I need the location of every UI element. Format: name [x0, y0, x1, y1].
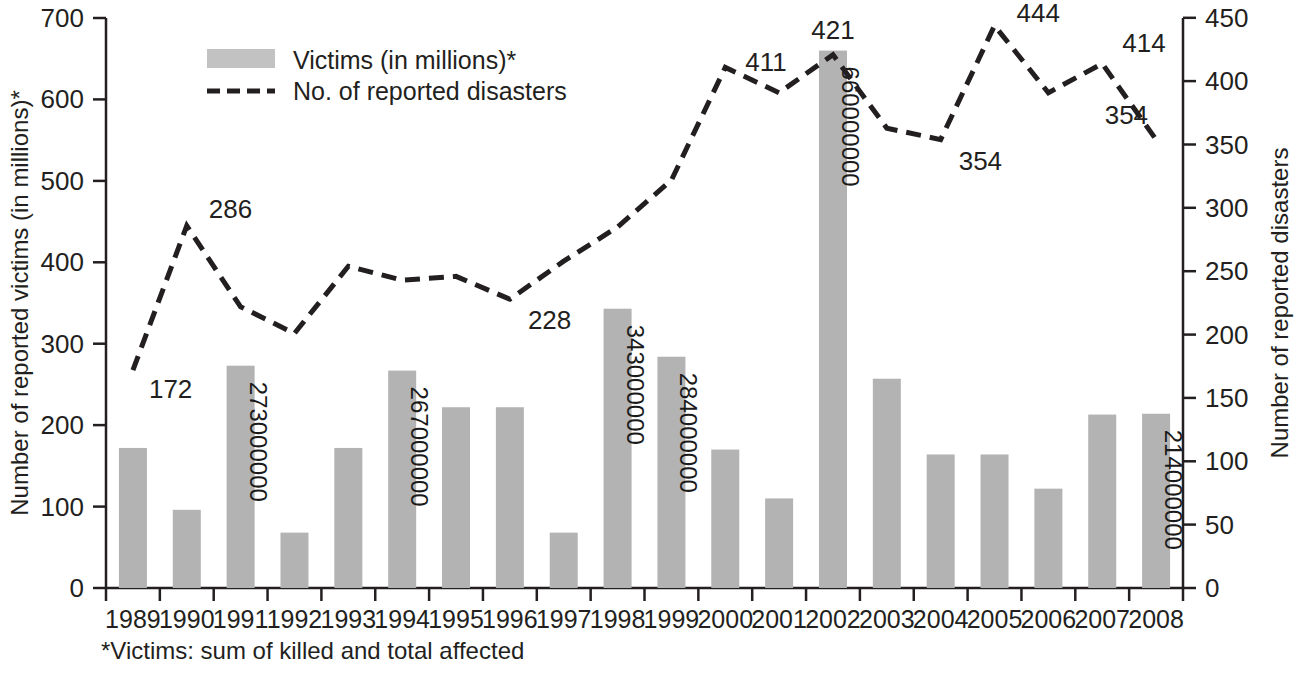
x-category-label: 2006 [1021, 605, 1077, 633]
x-category-label: 2007 [1074, 605, 1130, 633]
x-category-label: 2008 [1128, 605, 1184, 633]
line-value-label: 286 [209, 194, 252, 224]
footnote: *Victims: sum of killed and total affect… [101, 637, 524, 664]
left-tick-500: 500 [41, 166, 84, 196]
left-axis-tick-labels: 0 100 200 300 400 500 600 700 [41, 3, 84, 603]
right-axis-tick-labels: 0 50 100 150 200 250 300 350 400 450 [1205, 3, 1248, 603]
bar [280, 533, 308, 588]
x-category-label: 1997 [536, 605, 592, 633]
bar [496, 407, 524, 588]
right-tick-0: 0 [1205, 573, 1219, 603]
x-category-label: 1998 [590, 605, 646, 633]
x-category-label: 1994 [374, 605, 430, 633]
right-tick-450: 450 [1205, 3, 1248, 33]
legend: Victims (in millions)* No. of reported d… [207, 46, 567, 105]
bar [550, 533, 578, 588]
bar [1088, 415, 1116, 588]
right-tick-350: 350 [1205, 130, 1248, 160]
x-category-label: 1990 [159, 605, 215, 633]
x-category-label: 1993 [321, 605, 377, 633]
bar [981, 454, 1009, 588]
bar [119, 448, 147, 588]
x-axis-ticks [106, 588, 1183, 601]
bar-value-label: 284000000 [675, 373, 702, 493]
bar [927, 454, 955, 588]
left-tick-700: 700 [41, 3, 84, 33]
combo-chart: 0 100 200 300 400 500 600 700 Number of … [0, 0, 1304, 674]
x-category-label: 1991 [213, 605, 269, 633]
bar-value-label: 660000000 [837, 67, 864, 187]
bar-value-label: 267000000 [406, 387, 433, 507]
disasters-dashed-path [133, 26, 1156, 371]
x-category-label: 2001 [751, 605, 807, 633]
x-category-label: 1996 [482, 605, 538, 633]
x-category-label: 2003 [859, 605, 915, 633]
left-tick-200: 200 [41, 410, 84, 440]
bar [1034, 489, 1062, 588]
right-tick-200: 200 [1205, 320, 1248, 350]
left-axis-title: Number of reported victims (in millions)… [6, 90, 33, 515]
right-tick-250: 250 [1205, 256, 1248, 286]
left-tick-400: 400 [41, 247, 84, 277]
line-value-label: 421 [811, 15, 854, 45]
legend-swatch-victims [207, 49, 275, 68]
x-category-label: 2000 [697, 605, 753, 633]
line-value-label: 411 [745, 47, 786, 77]
bar [765, 498, 793, 588]
bar [442, 407, 470, 588]
x-category-label: 1999 [644, 605, 700, 633]
bar [173, 510, 201, 588]
x-category-label: 1989 [105, 605, 161, 633]
right-tick-100: 100 [1205, 446, 1248, 476]
right-axis-title: Number of reported disasters [1266, 148, 1293, 459]
chart-container: 0 100 200 300 400 500 600 700 Number of … [0, 0, 1304, 674]
bar-value-label: 214000000 [1160, 430, 1187, 550]
right-tick-150: 150 [1205, 383, 1248, 413]
x-category-label: 2004 [913, 605, 969, 633]
right-tick-300: 300 [1205, 193, 1248, 223]
left-tick-0: 0 [70, 573, 84, 603]
bar-value-label: 343000000 [622, 325, 649, 445]
bar [873, 379, 901, 588]
bars-group [119, 51, 1170, 588]
disasters-line [133, 26, 1156, 371]
x-category-label: 1995 [428, 605, 484, 633]
x-category-label: 2005 [967, 605, 1023, 633]
bar [334, 448, 362, 588]
bar-value-label: 273000000 [245, 382, 272, 502]
bar [711, 450, 739, 588]
line-value-label: 228 [528, 305, 571, 335]
left-tick-100: 100 [41, 492, 84, 522]
line-value-label: 354 [959, 146, 1002, 176]
left-axis-ticks [93, 18, 106, 588]
left-tick-600: 600 [41, 84, 84, 114]
x-category-label: 1992 [267, 605, 323, 633]
x-axis-category-labels: 1989199019911992199319941995199619971998… [105, 605, 1184, 633]
right-tick-400: 400 [1205, 66, 1248, 96]
legend-label-victims: Victims (in millions)* [293, 46, 516, 74]
legend-label-disasters: No. of reported disasters [293, 77, 567, 105]
line-value-label: 444 [1017, 0, 1060, 28]
axes-lines [106, 18, 1183, 588]
line-value-label: 172 [149, 374, 192, 404]
x-category-label: 2002 [805, 605, 861, 633]
right-tick-50: 50 [1205, 510, 1234, 540]
line-value-label: 414 [1122, 28, 1165, 58]
left-tick-300: 300 [41, 329, 84, 359]
line-value-label: 354 [1105, 100, 1148, 130]
